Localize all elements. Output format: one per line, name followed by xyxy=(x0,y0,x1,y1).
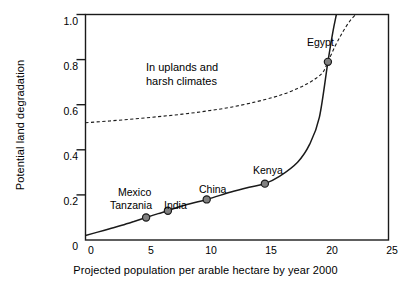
chart-figure: Potential land degradation 1.0 0.8 0.6 0… xyxy=(0,0,411,287)
data-point-marker xyxy=(143,214,150,221)
x-axis-title: Projected population per arable hectare … xyxy=(0,264,411,276)
point-label-china: China xyxy=(199,183,226,195)
point-label-kenya: Kenya xyxy=(253,164,283,176)
data-point-marker xyxy=(324,58,331,65)
annotation-uplands: In uplands and harsh climates xyxy=(146,60,218,88)
y-axis-ticks xyxy=(77,15,86,195)
harsh-climates-curve xyxy=(86,15,356,123)
data-point-marker xyxy=(261,180,268,187)
annotation-uplands-line1: In uplands and xyxy=(146,60,218,74)
point-label-tanzania: Tanzania xyxy=(110,199,152,211)
point-label-mexico: Mexico xyxy=(118,186,151,198)
data-point-marker xyxy=(203,196,210,203)
annotation-uplands-line2: harsh climates xyxy=(146,74,218,88)
plot-area xyxy=(0,0,411,287)
point-label-india: India xyxy=(164,199,187,211)
point-label-egypt: Egypt xyxy=(307,36,334,48)
